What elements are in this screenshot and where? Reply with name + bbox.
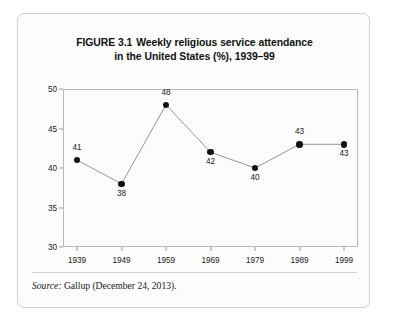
x-tick-label: 1989 <box>290 256 308 265</box>
figure-number: FIGURE 3.1 <box>76 37 132 48</box>
figure-title-text: Weekly religious service attendance <box>136 37 313 48</box>
source-text: Gallup (December 24, 2013). <box>64 280 177 291</box>
x-tick-label: 1959 <box>157 256 175 265</box>
x-tick-label: 1979 <box>246 256 264 265</box>
series-line <box>63 89 358 247</box>
figure-title-line-1: FIGURE 3.1Weekly religious service atten… <box>18 36 371 50</box>
data-point-label: 41 <box>72 143 81 152</box>
data-point-label: 38 <box>117 189 126 198</box>
x-tick-label: 1939 <box>68 256 86 265</box>
figure-card: FIGURE 3.1Weekly religious service atten… <box>17 13 370 308</box>
y-tick-label: 45 <box>48 124 57 133</box>
x-tick-label: 1949 <box>112 256 130 265</box>
source-note: Source: Gallup (December 24, 2013). <box>32 280 362 291</box>
data-point-label: 42 <box>206 157 215 166</box>
y-tick-label: 35 <box>48 203 57 212</box>
x-tick-mark <box>255 247 256 251</box>
y-tick-label: 40 <box>48 164 57 173</box>
data-point-marker <box>341 141 348 148</box>
x-tick-mark <box>344 247 345 251</box>
x-tick-label: 1969 <box>201 256 219 265</box>
data-point-label: 40 <box>250 173 259 182</box>
figure-title-line-2: in the United States (%), 1939–99 <box>18 50 371 64</box>
series-polyline <box>77 105 344 184</box>
data-point-label: 48 <box>161 88 170 97</box>
figure-title: FIGURE 3.1Weekly religious service atten… <box>18 36 371 64</box>
plot-area: 5045403530 1939194919591969197919891999 … <box>63 89 358 247</box>
data-point-marker <box>118 181 125 188</box>
data-point-label: 43 <box>295 127 304 136</box>
x-tick-mark <box>299 247 300 251</box>
x-tick-mark <box>210 247 211 251</box>
data-point-label: 43 <box>339 149 348 158</box>
x-tick-mark <box>166 247 167 251</box>
x-tick-mark <box>121 247 122 251</box>
source-separator <box>32 272 357 273</box>
source-keyword: Source: <box>32 280 61 291</box>
x-tick-mark <box>77 247 78 251</box>
x-tick-label: 1999 <box>335 256 353 265</box>
data-point-marker <box>296 141 303 148</box>
y-tick-label: 50 <box>48 85 57 94</box>
y-tick-label: 30 <box>48 243 57 252</box>
